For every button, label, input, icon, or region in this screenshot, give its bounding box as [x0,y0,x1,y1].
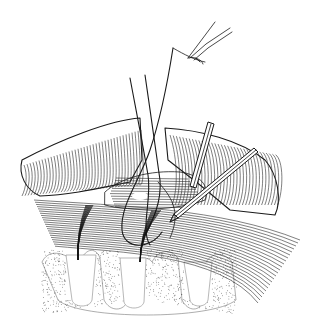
hatch-stroke [70,151,74,192]
tissue-flap-right [165,128,282,215]
hatch-stroke [58,154,62,192]
bone-teeth [42,250,238,315]
hatch-stroke [40,160,44,195]
hatch-stroke [37,161,41,195]
hatch-stroke [49,157,53,193]
tissue-flap-left [21,118,143,196]
hatch-stroke [61,153,65,192]
hatch-stroke [34,161,38,194]
flap-right-outline [165,128,278,215]
forceps [188,22,232,64]
hatch-stroke [76,149,80,191]
hatch-stroke [113,186,194,187]
hatch-stroke [64,152,68,191]
hatch-stroke [67,152,71,192]
hatch-stroke [110,194,200,195]
hatch-stroke [52,156,56,193]
retractor [170,148,258,222]
hatch-stroke [79,148,83,190]
hatch-stroke [43,159,47,194]
hatch-stroke [25,164,29,196]
hatch-stroke [115,181,190,182]
hatch-stroke [113,201,194,202]
hatch-stroke [55,155,59,193]
hatch-stroke [111,196,198,197]
highlight [132,192,148,200]
hatch-stroke [73,150,77,191]
hatch-stroke [46,158,50,194]
surgical-illustration [0,0,330,332]
hatch-stroke [112,188,196,189]
hatch-stroke [114,183,192,184]
